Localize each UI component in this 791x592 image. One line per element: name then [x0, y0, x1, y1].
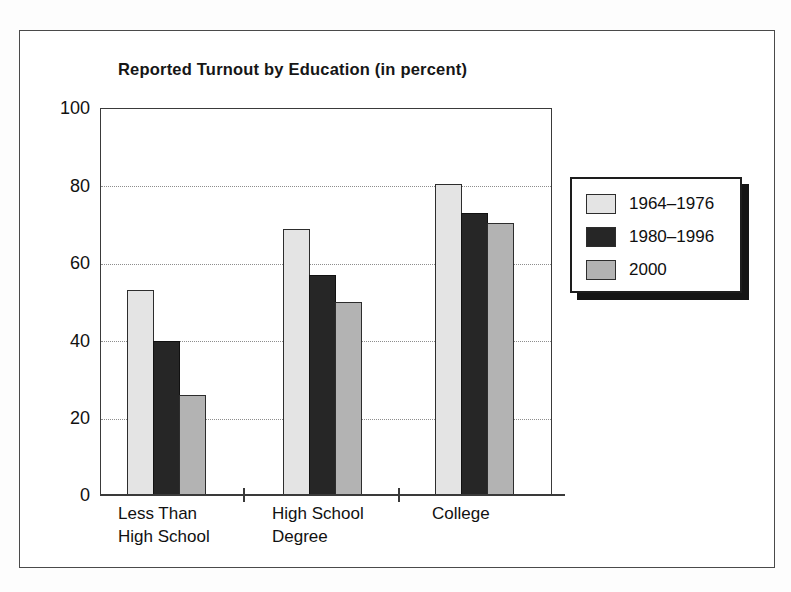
y-tick-label-80: 80	[14, 175, 90, 196]
bar-group-high-school-degree	[283, 109, 363, 495]
x-axis-label-less-than-high-school: Less Than High School	[118, 502, 210, 548]
bar-group-less-than-high-school	[127, 109, 207, 495]
legend-item-1980-1996: 1980–1996	[586, 224, 714, 250]
bar-1964-1976-high-school-degree	[283, 229, 310, 495]
plot-area	[100, 108, 552, 495]
bar-2000-less-than-high-school	[179, 395, 206, 495]
chart-title: Reported Turnout by Education (in percen…	[118, 60, 467, 79]
x-axis-line	[100, 494, 565, 496]
bar-1980-1996-high-school-degree	[309, 275, 336, 495]
y-tick-label-100: 100	[14, 98, 90, 119]
y-tick-label-60: 60	[14, 253, 90, 274]
legend-item-2000: 2000	[586, 257, 667, 283]
legend-label-2000: 2000	[629, 260, 667, 280]
x-axis-label-high-school-degree: High School Degree	[272, 502, 364, 548]
page-background: Reported Turnout by Education (in percen…	[0, 0, 791, 592]
legend-item-1964-1976: 1964–1976	[586, 191, 714, 217]
bar-group-college	[435, 109, 515, 495]
legend-swatch-1964-1976	[586, 194, 616, 214]
y-tick-label-40: 40	[14, 330, 90, 351]
y-tick-label-20: 20	[14, 408, 90, 429]
legend-swatch-1980-1996	[586, 227, 616, 247]
bar-1964-1976-college	[435, 184, 462, 495]
x-axis-tick-2	[398, 488, 400, 502]
x-axis-tick-1	[243, 488, 245, 502]
bar-1964-1976-less-than-high-school	[127, 290, 154, 495]
bar-2000-college	[487, 223, 514, 495]
bar-2000-high-school-degree	[335, 302, 362, 495]
legend-swatch-2000	[586, 260, 616, 280]
y-tick-label-0: 0	[14, 485, 90, 506]
bar-1980-1996-less-than-high-school	[153, 341, 180, 495]
legend-label-1964-1976: 1964–1976	[629, 194, 714, 214]
legend: 1964–1976 1980–1996 2000	[570, 177, 742, 293]
y-axis: 100 80 60 40 20 0	[10, 0, 90, 592]
legend-label-1980-1996: 1980–1996	[629, 227, 714, 247]
bar-1980-1996-college	[461, 213, 488, 495]
x-axis-label-college: College	[432, 502, 490, 525]
